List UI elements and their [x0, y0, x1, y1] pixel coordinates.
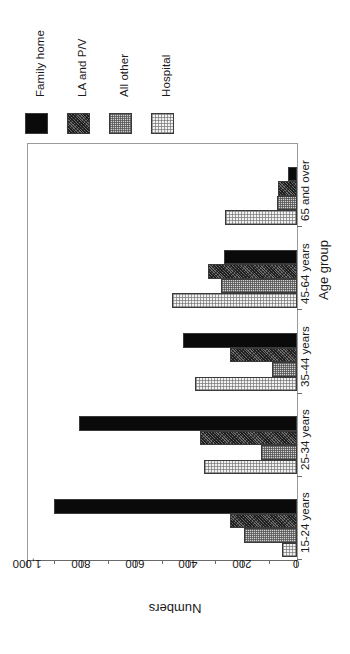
value-axis-tick-label: 0	[273, 558, 319, 570]
bar-35-44-years-all-other	[272, 362, 297, 377]
value-axis-tick-label: 800	[58, 558, 104, 570]
bar-15-24-years-family-home	[54, 499, 297, 514]
bar-15-24-years-all-other	[244, 528, 297, 543]
value-axis-tick-label: 600	[112, 558, 158, 570]
bar-35-44-years-family-home	[183, 333, 297, 348]
legend-label: LA and P/V	[77, 38, 89, 97]
category-axis-tick-label: 65 and over	[300, 160, 312, 221]
chart-legend: Family home LA and P/V All other Hospita…	[22, 6, 232, 134]
bar-65-and-over-family-home	[288, 167, 297, 182]
legend-item-all-other: All other	[106, 6, 136, 134]
bar-35-44-years-la-and-p-v	[230, 348, 297, 363]
bar-45-64-years-family-home	[224, 250, 297, 265]
value-axis-minor-tick	[215, 560, 216, 564]
bar-chart: Family home LA and P/V All other Hospita…	[0, 0, 350, 654]
value-axis-tick-label: 200	[219, 558, 265, 570]
category-axis-tick-label: 25-34 years	[300, 409, 312, 470]
bar-45-64-years-la-and-p-v	[208, 264, 297, 279]
bar-25-34-years-la-and-p-v	[200, 431, 297, 446]
category-axis-tick	[297, 393, 302, 394]
category-axis-tick	[297, 559, 302, 560]
bar-25-34-years-all-other	[261, 445, 297, 460]
legend-label: All other	[119, 53, 131, 96]
category-axis-title: Age group	[316, 240, 331, 300]
bar-15-24-years-hospital	[282, 543, 297, 558]
legend-swatch-hospital	[151, 113, 174, 134]
legend-swatch-family-home	[25, 113, 48, 134]
value-axis-tick-label: 1,000	[4, 558, 50, 570]
plot-area	[27, 143, 298, 561]
legend-item-la-and-pv: LA and P/V	[64, 6, 94, 134]
value-axis-tick-label: 400	[165, 558, 211, 570]
bar-25-34-years-hospital	[204, 460, 297, 475]
bar-35-44-years-hospital	[195, 377, 297, 392]
legend-swatch-la-and-pv	[67, 113, 90, 134]
category-axis-tick	[297, 309, 302, 310]
legend-label: Hospital	[161, 54, 173, 96]
legend-swatch-all-other	[109, 113, 132, 134]
category-axis-tick-label: 45-64 years	[300, 243, 312, 304]
legend-item-hospital: Hospital	[148, 6, 178, 134]
bar-15-24-years-la-and-p-v	[230, 514, 297, 529]
bar-65-and-over-all-other	[277, 196, 297, 211]
bar-45-64-years-hospital	[172, 293, 297, 308]
value-axis-minor-tick	[162, 560, 163, 564]
value-axis-minor-tick	[269, 560, 270, 564]
category-axis-tick	[297, 476, 302, 477]
bar-65-and-over-hospital	[225, 210, 297, 225]
category-axis-tick	[297, 226, 302, 227]
legend-item-family-home: Family home	[22, 6, 52, 134]
bar-25-34-years-family-home	[79, 416, 297, 431]
legend-label: Family home	[35, 30, 47, 97]
category-axis-tick-label: 35-44 years	[300, 326, 312, 387]
category-axis-labels: 15-24 years25-34 years35-44 years45-64 y…	[300, 143, 346, 559]
bar-65-and-over-la-and-p-v	[278, 181, 297, 196]
value-axis-minor-tick	[108, 560, 109, 564]
category-axis-tick-label: 15-24 years	[300, 493, 312, 554]
value-axis-title: Numbers	[95, 601, 255, 616]
value-axis-minor-tick	[54, 560, 55, 564]
bar-45-64-years-all-other	[221, 279, 297, 294]
